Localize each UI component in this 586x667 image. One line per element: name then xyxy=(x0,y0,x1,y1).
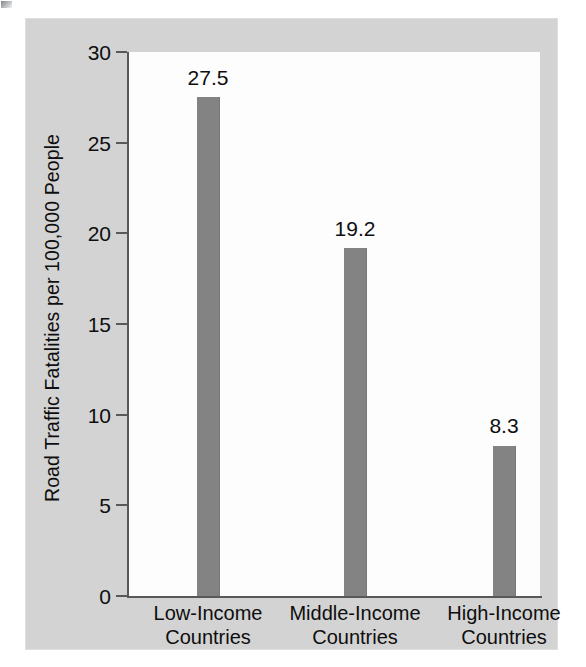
y-axis-tick-mark xyxy=(116,51,127,53)
bars-layer: 27.519.28.3 xyxy=(127,52,540,596)
x-axis-line xyxy=(127,596,542,598)
y-axis-tick-label: 25 xyxy=(88,132,111,153)
y-axis-tick-mark xyxy=(116,232,127,234)
x-axis-category-line: Countries xyxy=(447,626,560,650)
scan-artifact xyxy=(1,1,12,8)
y-axis-tick-label: 30 xyxy=(88,42,111,63)
y-axis-tick-label: 0 xyxy=(99,586,111,607)
x-axis-category-label: Middle-IncomeCountries xyxy=(289,602,420,649)
x-axis-category-line: Countries xyxy=(289,626,420,650)
y-axis-tick-label: 5 xyxy=(99,495,111,516)
bar xyxy=(344,248,367,596)
bar-value-label: 27.5 xyxy=(188,67,229,88)
bar-value-label: 8.3 xyxy=(489,415,518,436)
x-axis-category-label: Low-IncomeCountries xyxy=(154,602,263,649)
y-axis-tick-mark xyxy=(116,414,127,416)
x-axis-category-line: Middle-Income xyxy=(289,602,420,626)
y-axis-tick-mark xyxy=(116,504,127,506)
chart-figure-panel: Road Traffic Fatalities per 100,000 Peop… xyxy=(25,18,558,650)
x-axis-category-labels: Low-IncomeCountriesMiddle-IncomeCountrie… xyxy=(127,602,542,664)
y-axis-tick-label: 10 xyxy=(88,404,111,425)
y-axis-tick-mark xyxy=(116,595,127,597)
x-axis-category-line: Countries xyxy=(154,626,263,650)
y-axis-tick-label: 15 xyxy=(88,314,111,335)
y-axis-tick-mark xyxy=(116,142,127,144)
y-axis-ticks: 051015202530 xyxy=(25,18,127,650)
x-axis-category-line: Low-Income xyxy=(154,602,263,626)
x-axis-category-line: High-Income xyxy=(447,602,560,626)
y-axis-tick-label: 20 xyxy=(88,223,111,244)
x-axis-category-label: High-IncomeCountries xyxy=(447,602,560,649)
bar-value-label: 19.2 xyxy=(335,218,376,239)
y-axis-tick-mark xyxy=(116,323,127,325)
bar xyxy=(493,446,516,597)
bar xyxy=(197,97,220,596)
